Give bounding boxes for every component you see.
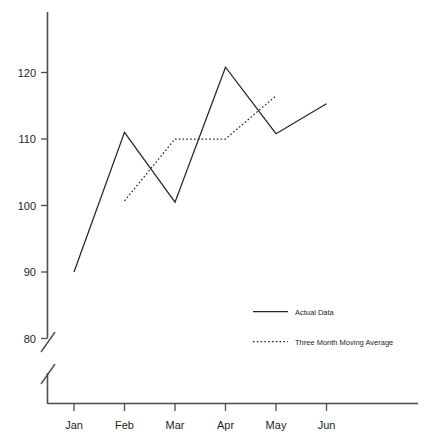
x-tick-label-mar: Mar [166,419,185,431]
line-chart: 120 110 100 90 80 Jan Feb Mar Apr May Ju… [0,0,427,447]
series-actual-data [74,67,327,272]
y-axis: 120 110 100 90 80 [18,12,55,404]
y-tick-label-90: 90 [24,266,36,278]
x-tick-label-feb: Feb [115,419,134,431]
x-tick-label-jun: Jun [318,419,336,431]
legend: Actual Data Three Month Moving Average [253,308,393,347]
y-tick-label-120: 120 [18,67,36,79]
x-tick-label-may: May [266,419,287,431]
x-tick-label-apr: Apr [217,419,234,431]
legend-label-three-month-moving-average: Three Month Moving Average [295,338,393,347]
x-axis: Jan Feb Mar Apr May Jun [48,404,419,432]
series-three-month-moving-average [125,96,277,201]
x-tick-label-jan: Jan [65,419,83,431]
legend-label-actual-data: Actual Data [295,308,335,317]
y-tick-label-80: 80 [24,333,36,345]
legend-entry-actual-data: Actual Data [253,308,335,317]
chart-canvas: 120 110 100 90 80 Jan Feb Mar Apr May Ju… [0,0,427,447]
legend-entry-three-month-moving-average: Three Month Moving Average [253,338,393,347]
series-group [74,67,327,272]
y-tick-label-110: 110 [18,133,36,145]
y-tick-label-100: 100 [18,200,36,212]
